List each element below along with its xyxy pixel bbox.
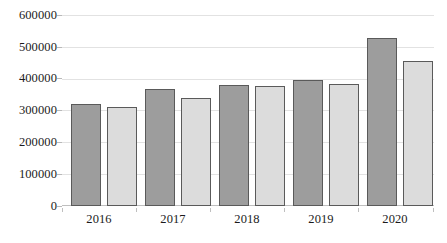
- x-tick-label-2020: 2020: [355, 213, 435, 226]
- bar-series-1[interactable]: [145, 89, 175, 206]
- x-tick-mark: [433, 208, 434, 212]
- y-axis: 600000 500000 400000 300000 200000 10000…: [0, 0, 57, 243]
- y-tick-label: 600000: [0, 9, 57, 22]
- bar-group: [71, 15, 137, 206]
- bar-series-1[interactable]: [219, 85, 249, 206]
- y-tick-mark: [57, 206, 62, 207]
- x-tick-mark: [358, 208, 359, 212]
- bar-series-2[interactable]: [403, 61, 433, 206]
- bar-series-1[interactable]: [367, 38, 397, 206]
- x-tick-label-2018: 2018: [207, 213, 287, 226]
- x-tick-mark: [136, 208, 137, 212]
- bar-group: [293, 15, 359, 206]
- y-tick-label: 200000: [0, 136, 57, 149]
- bar-series-2[interactable]: [329, 84, 359, 206]
- bar-series-2[interactable]: [181, 98, 211, 206]
- y-tick-label: 100000: [0, 168, 57, 181]
- x-axis: 2016 2017 2018 2019 2020: [62, 208, 434, 238]
- y-tick-label: 0: [0, 200, 57, 213]
- x-tick-mark: [284, 208, 285, 212]
- bar-series-2[interactable]: [255, 86, 285, 206]
- bar-series-1[interactable]: [293, 80, 323, 206]
- x-tick-mark: [62, 208, 63, 212]
- y-tick-label: 500000: [0, 41, 57, 54]
- bar-group: [367, 15, 433, 206]
- bar-series-1[interactable]: [71, 104, 101, 206]
- plot-area: [62, 15, 434, 206]
- x-tick-label-2016: 2016: [59, 213, 139, 226]
- x-tick-label-2019: 2019: [281, 213, 361, 226]
- bar-group: [219, 15, 285, 206]
- y-tick-label: 300000: [0, 104, 57, 117]
- x-tick-label-2017: 2017: [133, 213, 213, 226]
- bar-series-2[interactable]: [107, 107, 137, 206]
- bar-chart: 600000 500000 400000 300000 200000 10000…: [0, 0, 447, 243]
- bar-group: [145, 15, 211, 206]
- y-tick-label: 400000: [0, 72, 57, 85]
- x-tick-mark: [210, 208, 211, 212]
